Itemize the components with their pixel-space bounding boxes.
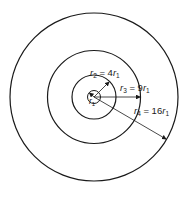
label-r3: r3 = 9r1 xyxy=(120,82,150,94)
concentric-circles-diagram: r1 r2 = 4r1 r3 = 9r1 r4 = 16r1 xyxy=(0,0,187,199)
radius-arrow-r2 xyxy=(94,82,109,97)
radius-arrow-r4 xyxy=(94,97,166,139)
label-r2: r2 = 4r1 xyxy=(90,67,120,79)
